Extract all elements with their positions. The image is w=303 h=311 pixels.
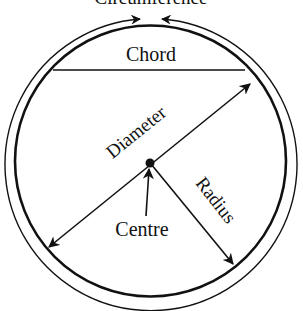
centre-label: Centre [115,218,168,240]
chord-label: Chord [126,43,176,65]
centre-point [146,159,155,168]
radius-label: Radius [192,173,241,228]
diameter-label: Diameter [102,101,171,162]
circle-parts-diagram: Circumference Chord Diameter Radius Cent… [0,0,303,311]
circumference-label: Circumference [95,0,208,8]
centre-pointer-arrow [146,169,149,216]
